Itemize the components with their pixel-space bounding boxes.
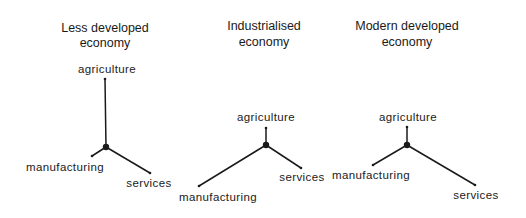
manufacturing-endpoint	[372, 164, 375, 167]
agriculture-label: agriculture	[379, 111, 437, 123]
services-label: services	[279, 171, 324, 183]
manufacturing-label: manufacturing	[332, 169, 410, 181]
manufacturing-label: manufacturing	[26, 161, 104, 173]
services-label: services	[453, 189, 498, 201]
diagram-title-line1: Less developed	[61, 21, 149, 35]
manufacturing-axis	[373, 145, 407, 165]
origin-dot	[103, 144, 109, 150]
agriculture-label: agriculture	[78, 63, 136, 75]
services-label: services	[126, 177, 171, 189]
agriculture-endpoint	[265, 127, 268, 130]
services-endpoint	[474, 184, 477, 187]
agriculture-axis	[105, 79, 106, 147]
manufacturing-endpoint	[91, 155, 94, 158]
origin-dot	[263, 142, 269, 148]
diagram-title-line1: Modern developed	[355, 19, 459, 33]
services-endpoint	[300, 167, 303, 170]
manufacturing-label: manufacturing	[179, 191, 257, 203]
agriculture-label: agriculture	[237, 111, 295, 123]
diagram-title-line2: economy	[239, 35, 290, 49]
diagram-modern-developed: Modern developed economy agriculture man…	[332, 19, 499, 201]
agriculture-endpoint	[406, 126, 409, 129]
services-axis	[266, 145, 301, 168]
diagram-less-developed: Less developed economy agriculture manuf…	[26, 21, 172, 189]
manufacturing-axis	[199, 145, 266, 186]
services-endpoint	[149, 172, 152, 175]
agriculture-endpoint	[104, 78, 107, 81]
diagram-title-line1: Industrialised	[227, 19, 301, 33]
diagram-title-line2: economy	[382, 35, 433, 49]
services-axis	[106, 147, 150, 173]
diagram-industrialised: Industrialised economy agriculture manuf…	[179, 19, 325, 203]
origin-dot	[404, 142, 410, 148]
economy-structure-diagrams: Less developed economy agriculture manuf…	[0, 0, 526, 218]
manufacturing-endpoint	[198, 185, 201, 188]
diagram-title-line2: economy	[80, 36, 131, 50]
services-axis	[407, 145, 475, 185]
